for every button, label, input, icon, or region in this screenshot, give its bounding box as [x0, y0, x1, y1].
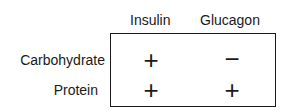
- carbohydrate-insulin-sign: +: [143, 47, 158, 73]
- response-table-box: [110, 33, 276, 107]
- carbohydrate-glucagon-sign: −: [224, 46, 239, 72]
- protein-insulin-sign: +: [143, 77, 158, 103]
- column-header-glucagon: Glucagon: [200, 12, 260, 28]
- row-label-protein: Protein: [54, 82, 98, 98]
- row-label-carbohydrate: Carbohydrate: [20, 52, 105, 68]
- column-header-insulin: Insulin: [130, 12, 170, 28]
- protein-glucagon-sign: +: [224, 77, 239, 103]
